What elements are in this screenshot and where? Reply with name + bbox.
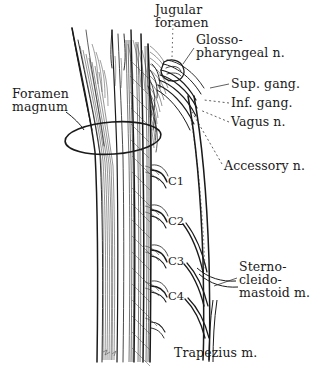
foramen-magnum-ring bbox=[64, 119, 162, 158]
label-scm-line3: mastoid m. bbox=[239, 285, 310, 300]
anatomical-illustration: Jugularforamen Glosso-pharyngeal n. Sup.… bbox=[0, 0, 329, 372]
label-foramen-magnum-line2: magnum bbox=[12, 99, 68, 114]
label-accessory-nerve: Accessory n. bbox=[224, 160, 305, 173]
cervical-rootlets bbox=[151, 165, 209, 338]
label-trapezius-muscle: Trapezius m. bbox=[174, 347, 257, 360]
label-glossopharyngeal-nerve: Glosso-pharyngeal n. bbox=[196, 34, 285, 60]
label-nerve-root-c4: C4 bbox=[168, 289, 184, 303]
label-nerve-root-c3: C3 bbox=[168, 254, 184, 268]
label-inferior-ganglion: Inf. gang. bbox=[231, 97, 293, 110]
label-superior-ganglion: Sup. gang. bbox=[231, 78, 300, 91]
label-nerve-root-c1: C1 bbox=[168, 174, 184, 188]
label-foramen-magnum: Foramenmagnum bbox=[12, 88, 69, 114]
label-sternocleidomastoid-muscle: Sterno-cleido-mastoid m. bbox=[239, 261, 310, 299]
leader-lines bbox=[172, 24, 237, 286]
label-glossopharyngeal-line2: pharyngeal n. bbox=[196, 45, 285, 60]
label-jugular-foramen-line2: foramen bbox=[155, 15, 209, 30]
label-jugular-foramen: Jugularforamen bbox=[155, 4, 209, 30]
label-vagus-nerve: Vagus n. bbox=[231, 116, 286, 129]
label-nerve-root-c2: C2 bbox=[168, 214, 184, 228]
